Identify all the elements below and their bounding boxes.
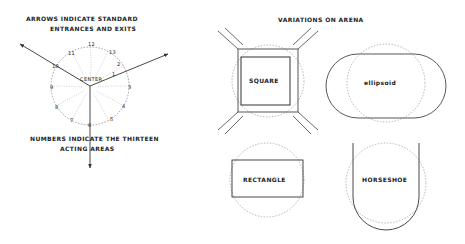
area-number: 3 — [128, 84, 132, 90]
area-number: 10 — [52, 63, 59, 69]
area-number: 6 — [88, 122, 92, 128]
variations-title: Variations on arena — [278, 16, 364, 23]
area-number: 1 — [112, 71, 116, 77]
area-number: 5 — [110, 116, 114, 122]
area-number: 7 — [70, 117, 74, 123]
horseshoe-arena — [346, 143, 426, 230]
arrows-caption-line1: Arrows indicate standard — [26, 15, 138, 22]
ellipsoid-label: ellipsoid — [364, 79, 396, 86]
center-label: Center — [80, 76, 102, 82]
area-number: 9 — [50, 84, 54, 90]
area-number: 13 — [109, 49, 116, 55]
area-number: 8 — [55, 104, 59, 110]
area-number: 11 — [68, 50, 75, 56]
horseshoe-label: Horseshoe — [362, 176, 407, 183]
numbers-caption-line2: acting areas — [60, 145, 115, 152]
rectangle-label: Rectangle — [243, 176, 286, 183]
numbers-caption-line1: Numbers indicate the thirteen — [30, 135, 159, 142]
area-number: 4 — [122, 103, 126, 109]
area-number: 12 — [88, 41, 95, 47]
arrows-caption-line2: entrances and exits — [50, 25, 136, 32]
square-label: Square — [249, 77, 279, 84]
area-number: 2 — [117, 61, 121, 67]
